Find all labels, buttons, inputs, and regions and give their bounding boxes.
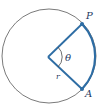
point-a-label: A xyxy=(84,88,92,99)
point-p-dot xyxy=(80,22,84,26)
point-a-dot xyxy=(80,87,84,91)
angle-arc xyxy=(58,47,62,67)
angle-theta-label: θ xyxy=(65,52,71,63)
circle-sector-diagram: P A θ r xyxy=(0,0,97,104)
point-p-label: P xyxy=(85,10,93,21)
arc-ap xyxy=(82,24,95,89)
radius-r-label: r xyxy=(56,72,61,81)
